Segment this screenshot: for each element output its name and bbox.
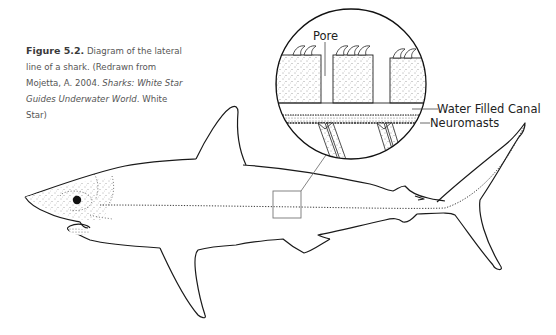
label-water-filled-canal: Water Filled Canal — [437, 102, 541, 116]
label-neuromasts: Neuromasts — [430, 116, 499, 130]
leader-line — [301, 155, 326, 191]
magnified-region-box — [273, 191, 301, 218]
skin-block — [333, 55, 373, 103]
magnified-section — [270, 9, 435, 165]
shark-eye — [73, 196, 81, 204]
label-pore: Pore — [313, 29, 338, 43]
skin-block — [276, 55, 321, 103]
shark-lateral-line-diagram: Pore Water Filled Canal Neuromasts — [0, 0, 556, 335]
